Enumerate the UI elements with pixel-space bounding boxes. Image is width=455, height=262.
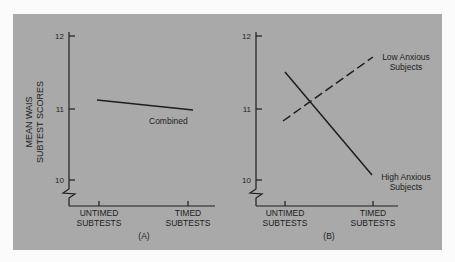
- x-label-timed-line2: SUBTESTS: [166, 218, 211, 228]
- panel-a-caption: (A): [138, 231, 150, 241]
- y-axis-label: MEAN WAIS SUBTEST SCORES: [24, 81, 45, 163]
- series-combined-label: Combined: [149, 116, 188, 126]
- x-label-timed-b-line2: SUBTESTS: [351, 218, 396, 228]
- panel-b: 12 11 10 UNTIMED SUBTESTS TIMED SUBTESTS…: [242, 32, 431, 241]
- x-label-untimed-b-line2: SUBTESTS: [263, 218, 308, 228]
- series-combined-line: [97, 100, 193, 110]
- x-label-timed-line1: TIMED: [175, 208, 201, 218]
- panel-b-caption: (B): [323, 231, 335, 241]
- series-high-anxious-line: [285, 72, 372, 175]
- series-low-anxious-label-line1: Low Anxious: [382, 52, 430, 62]
- x-label-untimed-b-line1: UNTIMED: [266, 208, 305, 218]
- y-tick-11-b: 11: [243, 105, 252, 114]
- x-axis-b: [256, 201, 398, 206]
- x-label-untimed-line1: UNTIMED: [80, 208, 119, 218]
- x-label-untimed-line2: SUBTESTS: [77, 218, 122, 228]
- series-low-anxious-label-line2: Subjects: [390, 62, 423, 72]
- x-label-timed-b-line1: TIMED: [360, 208, 386, 218]
- y-axis-label-line1: MEAN WAIS: [24, 96, 34, 147]
- y-tick-10-b: 10: [242, 176, 251, 185]
- y-tick-11: 11: [56, 105, 65, 114]
- x-axis: [69, 201, 215, 206]
- series-low-anxious-line: [283, 57, 373, 121]
- y-tick-10: 10: [55, 176, 64, 185]
- y-axis-label-line2: SUBTEST SCORES: [35, 81, 45, 163]
- panel-a: MEAN WAIS SUBTEST SCORES 12 11 10 UNTIME…: [24, 32, 215, 241]
- y-tick-12: 12: [55, 32, 64, 41]
- y-axis-b: [250, 32, 262, 206]
- chart-figure: MEAN WAIS SUBTEST SCORES 12 11 10 UNTIME…: [0, 0, 455, 262]
- series-high-anxious-label-line1: High Anxious: [381, 172, 431, 182]
- y-axis: [63, 32, 75, 206]
- series-high-anxious-label-line2: Subjects: [390, 182, 423, 192]
- y-tick-12-b: 12: [242, 32, 251, 41]
